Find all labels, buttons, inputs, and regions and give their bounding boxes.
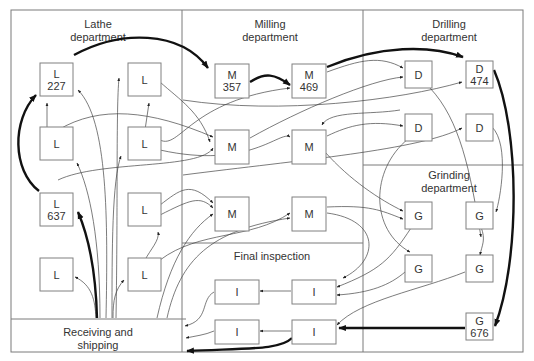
machine-i: I: [292, 280, 336, 304]
machine-m-357: M357: [215, 64, 249, 98]
machine-type-label: D: [415, 69, 423, 81]
flow-arrow: [145, 232, 158, 260]
flow-arrow: [337, 228, 411, 287]
grinding-dept-label-line1: Grinding: [428, 169, 470, 181]
machine-number-label: 227: [47, 80, 65, 92]
machine-l: L: [128, 127, 161, 160]
machine-type-label: D: [476, 122, 484, 134]
machine-type-label: I: [312, 286, 315, 298]
machine-type-label: D: [415, 122, 423, 134]
drilling-dept-label-line1: Drilling: [432, 18, 466, 30]
flow-arrow: [380, 139, 410, 252]
lathe-dept-label-line2: department: [70, 31, 126, 43]
highlighted-route: [18, 38, 513, 351]
machine-type-label: G: [414, 263, 423, 275]
drilling-dept-label-line2: department: [421, 31, 477, 43]
machine-type-label: M: [227, 141, 236, 153]
department-frames: [11, 10, 523, 352]
machine-d: D: [466, 114, 493, 141]
machine-g: G: [466, 202, 493, 229]
machine-type-label: I: [235, 286, 238, 298]
receiving-dept-label-line1: Receiving and: [63, 326, 133, 338]
machine-g-676: G676: [466, 313, 493, 340]
outer-frame: [11, 10, 523, 352]
machine-type-label: L: [141, 269, 147, 281]
machine-type-label: I: [235, 326, 238, 338]
flow-arrow: [327, 123, 403, 136]
machine-d: D: [405, 61, 432, 88]
machine-type-label: M: [304, 69, 313, 81]
machine-type-label: L: [141, 138, 147, 150]
machine-type-label: L: [141, 204, 147, 216]
flow-arrow: [78, 90, 107, 318]
machine-m: M: [215, 130, 249, 164]
machine-l-637: L637: [40, 193, 73, 226]
machine-type-label: L: [53, 269, 59, 281]
flow-arrow: [327, 207, 403, 219]
flow-arrows: [47, 60, 502, 338]
receiving-dept-label-line2: shipping: [78, 339, 119, 351]
machine-i: I: [215, 280, 259, 304]
milling-dept-label-line1: Milling: [254, 18, 285, 30]
flow-arrow: [157, 214, 213, 318]
machine-l-227: L227: [40, 63, 73, 96]
machine-type-label: L: [141, 74, 147, 86]
inspection-dept-label: Final inspection: [234, 250, 310, 262]
main-route-segment: [18, 95, 39, 191]
machine-l: L: [40, 258, 73, 291]
main-route-segment: [494, 70, 514, 326]
machine-m: M: [292, 197, 326, 231]
machine-g: G: [466, 255, 493, 282]
grinding-dept-label-line2: department: [421, 182, 477, 194]
flow-arrow: [113, 280, 124, 318]
machine-l: L: [128, 193, 161, 226]
machine-i: I: [292, 320, 336, 344]
flow-arrow: [337, 272, 465, 325]
lathe-dept-label-line1: Lathe: [84, 18, 112, 30]
machine-l: L: [128, 63, 161, 96]
machine-d-474: D474: [466, 61, 493, 88]
machine-type-label: G: [475, 263, 484, 275]
flow-arrow: [186, 331, 214, 338]
machine-type-label: M: [227, 208, 236, 220]
flow-arrow: [75, 277, 96, 318]
flow-arrow: [322, 110, 400, 125]
machine-g: G: [405, 255, 432, 282]
machine-i: I: [215, 320, 259, 344]
machine-type-label: M: [304, 208, 313, 220]
machine-m-469: M469: [292, 64, 326, 98]
machine-type-label: G: [414, 210, 423, 222]
main-route-segment: [250, 76, 290, 85]
flow-arrow: [480, 227, 483, 255]
machine-d: D: [405, 114, 432, 141]
machine-g: G: [405, 202, 432, 229]
machine-type-label: D: [476, 63, 484, 75]
diagram-canvas: Lathe department Milling department Dril…: [0, 0, 534, 361]
flow-arrow: [160, 201, 213, 215]
machine-m: M: [292, 130, 326, 164]
machine-type-label: I: [312, 326, 315, 338]
flow-arrow: [325, 152, 403, 211]
machine-type-label: L: [53, 68, 59, 80]
process-layout-diagram: Lathe department Milling department Dril…: [0, 0, 534, 361]
flow-arrow: [185, 292, 214, 326]
machine-number-label: 357: [223, 81, 241, 93]
machine-number-label: 676: [470, 327, 488, 339]
machine-type-label: M: [304, 141, 313, 153]
machine-type-label: G: [475, 315, 484, 327]
machine-l: L: [40, 127, 73, 160]
machine-number-label: 474: [470, 75, 488, 87]
machine-boxes: L227LLLL637LLLM357M469MMMMDD474DDGGGGG67…: [40, 61, 493, 344]
machine-type-label: L: [53, 198, 59, 210]
machine-type-label: M: [227, 69, 236, 81]
machine-type-label: G: [475, 210, 484, 222]
machine-number-label: 637: [47, 210, 65, 222]
milling-dept-label-line2: department: [242, 31, 298, 43]
machine-type-label: L: [53, 138, 59, 150]
machine-m: M: [215, 197, 249, 231]
flow-arrow: [492, 127, 502, 212]
machine-number-label: 469: [300, 81, 318, 93]
machine-l: L: [128, 258, 161, 291]
